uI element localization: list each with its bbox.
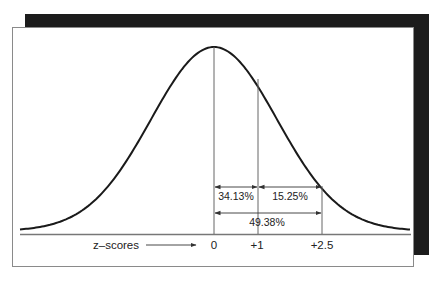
normal-curve-diagram: 34.13% 15.25% 49.38% z–scores 0 +1 +2.5 [0,0,439,281]
area-label-49: 49.38% [249,216,285,228]
bell-curve [20,47,410,230]
z-scores-label: z–scores [93,239,139,251]
area-label-34: 34.13% [218,190,254,202]
tick-label-1: +1 [250,239,263,251]
tick-label-25: +2.5 [311,239,334,251]
area-label-15: 15.25% [272,190,308,202]
tick-label-0: 0 [211,239,217,251]
